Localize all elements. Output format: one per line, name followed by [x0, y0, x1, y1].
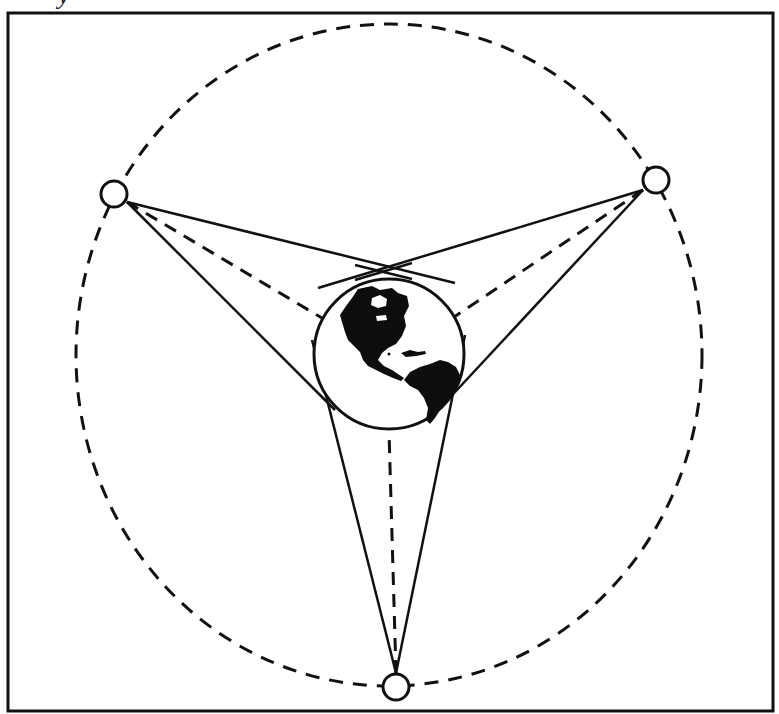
satellite-right	[643, 167, 669, 193]
satellite-left	[101, 181, 127, 207]
right-center-line	[454, 190, 643, 317]
bottom-center-line	[389, 432, 396, 673]
center-lines	[127, 190, 643, 673]
earth-globe	[314, 263, 464, 429]
right-upper-tangent	[318, 190, 643, 288]
left-upper-tangent	[127, 202, 455, 283]
caribbean-island-dot	[388, 353, 391, 356]
satellites	[101, 167, 669, 700]
coverage-lines	[127, 190, 643, 673]
right-lower-tangent	[443, 190, 643, 405]
great-lakes	[376, 315, 387, 321]
satellite-coverage-diagram	[0, 0, 779, 714]
satellite-bottom	[383, 674, 409, 700]
